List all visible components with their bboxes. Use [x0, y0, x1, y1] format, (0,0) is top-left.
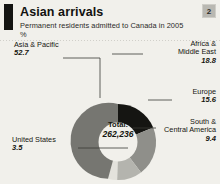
label-asia-pacific: Asia & Pacific 52.7 [14, 41, 59, 58]
page-title: Asian arrivals [20, 5, 103, 19]
label-united-states: United States 3.5 [12, 136, 56, 153]
label-us-value: 3.5 [12, 144, 56, 152]
label-europe-value: 15.6 [192, 96, 216, 104]
header-accent-bar [4, 4, 13, 30]
donut-chart: Total: 262,236 Asia & Pacific 52.7 Afric… [0, 42, 220, 184]
total-value: 262,236 [88, 129, 148, 139]
axis-unit-label: % [20, 30, 27, 39]
total-caption: Total: [88, 120, 148, 129]
label-asia-pacific-value: 52.7 [14, 49, 59, 57]
status-badge: 2 [202, 4, 216, 18]
donut-segments [71, 103, 157, 180]
label-europe: Europe 15.6 [192, 88, 216, 105]
donut-center-label: Total: 262,236 [88, 70, 148, 114]
chart-panel: Asian arrivals Permanent residents admit… [0, 0, 220, 184]
label-sca-value: 9.4 [164, 135, 216, 143]
page-subtitle: Permanent residents admitted to Canada i… [20, 21, 183, 30]
label-africa-middle-east: Africa & Middle East 18.8 [178, 40, 216, 65]
label-south-central-america: South & Central America 9.4 [164, 118, 216, 143]
label-africa-value: 18.8 [178, 57, 216, 65]
